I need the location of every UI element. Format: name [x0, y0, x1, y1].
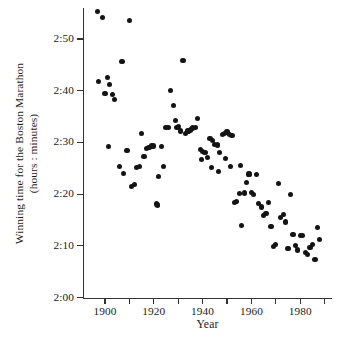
x-tick-mark	[251, 298, 252, 304]
data-point	[229, 133, 234, 138]
data-point	[239, 223, 244, 228]
data-point	[254, 172, 259, 177]
data-point	[317, 237, 322, 242]
y-tick-label: 2:00	[30, 291, 74, 303]
data-point	[205, 155, 210, 160]
data-point	[195, 116, 200, 121]
data-point	[281, 212, 286, 217]
data-point	[106, 144, 111, 149]
data-point	[151, 143, 156, 148]
data-point	[223, 156, 228, 161]
data-point	[273, 242, 278, 247]
scatter-plot-figure: Winning time for the Boston Marathon (ho…	[0, 0, 351, 345]
x-tick-label: 1940	[183, 305, 223, 317]
data-point	[209, 165, 214, 170]
x-tick-label: 1920	[134, 305, 174, 317]
data-point	[193, 125, 198, 130]
y-tick-mark	[77, 194, 83, 195]
data-point	[161, 164, 166, 169]
data-point	[283, 219, 288, 224]
data-point	[180, 58, 185, 63]
y-tick-mark	[77, 38, 83, 39]
x-tick-label: 1900	[85, 305, 125, 317]
x-tick-label: 1960	[231, 305, 271, 317]
x-minor-tick-mark	[129, 298, 130, 304]
y-tick-label: 2:10	[30, 239, 74, 251]
data-point	[305, 252, 310, 257]
y-tick-mark	[77, 142, 83, 143]
data-point	[105, 75, 110, 80]
x-minor-tick-mark	[226, 298, 227, 304]
data-point	[96, 79, 101, 84]
x-tick-mark	[153, 298, 154, 304]
data-point	[216, 169, 221, 174]
x-tick-mark	[202, 298, 203, 304]
data-point	[215, 142, 220, 147]
data-point	[244, 180, 249, 185]
data-point	[251, 192, 256, 197]
data-point	[285, 246, 290, 251]
data-point	[228, 164, 233, 169]
data-point	[310, 242, 315, 247]
x-minor-tick-mark	[178, 298, 179, 304]
data-point	[173, 118, 178, 123]
data-point	[117, 164, 122, 169]
y-tick-label: 2:40	[30, 84, 74, 96]
x-tick-mark	[300, 298, 301, 304]
data-point	[159, 144, 164, 149]
data-point	[217, 150, 222, 155]
x-minor-tick-mark	[275, 298, 276, 304]
y-tick-label: 2:50	[30, 32, 74, 44]
data-point	[266, 200, 271, 205]
data-point	[242, 190, 247, 195]
data-point	[276, 181, 281, 186]
y-axis-line	[83, 8, 84, 299]
data-point	[288, 192, 293, 197]
data-point	[199, 157, 204, 162]
data-point	[102, 91, 107, 96]
data-point	[107, 82, 112, 87]
x-axis-line	[83, 298, 332, 299]
y-tick-mark	[77, 297, 83, 298]
data-point	[246, 171, 251, 176]
data-point	[290, 232, 295, 237]
y-tick-mark	[77, 245, 83, 246]
data-point	[156, 174, 161, 179]
data-point	[263, 211, 268, 216]
x-minor-tick-mark	[324, 298, 325, 304]
data-point	[155, 202, 160, 207]
data-point	[124, 148, 129, 153]
data-point	[268, 224, 273, 229]
y-tick-mark	[77, 90, 83, 91]
data-point	[100, 15, 105, 20]
x-axis-title: Year	[83, 318, 332, 331]
y-tick-label: 2:30	[30, 135, 74, 147]
data-point	[139, 131, 144, 136]
data-point	[168, 88, 173, 93]
data-point	[171, 103, 176, 108]
data-point	[127, 18, 132, 23]
data-point	[141, 154, 146, 159]
data-point	[312, 257, 317, 262]
data-point	[315, 225, 320, 230]
y-tick-label: 2:20	[30, 187, 74, 199]
x-tick-label: 1980	[280, 305, 320, 317]
data-point	[119, 59, 124, 64]
data-point	[121, 171, 126, 176]
data-point	[300, 233, 305, 238]
data-point	[95, 9, 100, 14]
data-point	[137, 164, 142, 169]
x-tick-mark	[104, 298, 105, 304]
data-point	[166, 125, 171, 130]
data-point	[238, 163, 243, 168]
data-point	[234, 199, 239, 204]
data-point	[295, 247, 300, 252]
data-point	[259, 204, 264, 209]
data-point	[112, 97, 117, 102]
data-point	[132, 182, 137, 187]
